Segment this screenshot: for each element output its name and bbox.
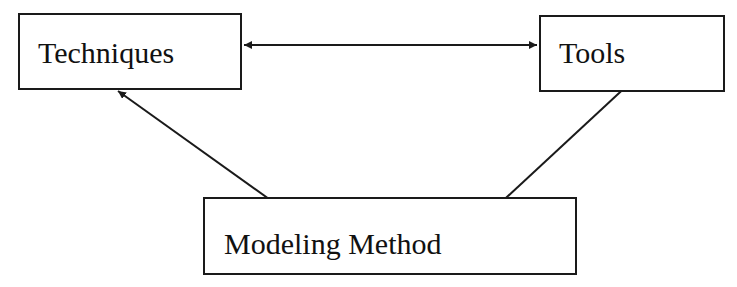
node-modeling-method-label: Modeling Method [224, 229, 442, 259]
node-tools-label: Tools [559, 38, 625, 68]
node-techniques: Techniques [18, 13, 242, 90]
node-tools: Tools [539, 15, 725, 92]
node-techniques-label: Techniques [38, 38, 174, 68]
edge-tools-modeling-method [494, 82, 631, 209]
node-modeling-method: Modeling Method [203, 197, 577, 275]
edge-techniques-modeling-method [118, 91, 276, 204]
